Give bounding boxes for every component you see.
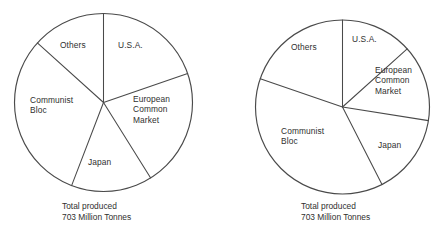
slice-label-usa: U.S.A. (118, 40, 143, 50)
pie-chart-left: U.S.A. European Common Market Japan Comm… (0, 0, 224, 240)
slice-label-communist-bloc: Communist Bloc (30, 95, 73, 116)
pie-slice-divider (260, 79, 342, 107)
pie-chart-right: U.S.A. European Common Market Japan Comm… (224, 0, 448, 240)
slice-label-communist-bloc: Communist Bloc (281, 126, 324, 147)
slice-label-japan: Japan (88, 157, 111, 167)
pie-right-caption: Total produced 703 Million Tonnes (301, 201, 370, 223)
slice-label-others: Others (291, 42, 317, 52)
pie-slice-divider (72, 103, 104, 186)
slice-label-japan: Japan (378, 140, 401, 150)
slice-label-european-common-market: European Common Market (133, 94, 170, 125)
slice-label-usa: U.S.A. (352, 34, 377, 44)
pie-slice-divider (343, 107, 429, 121)
slice-label-european-common-market: European Common Market (375, 65, 412, 96)
pie-chart-figure: U.S.A. European Common Market Japan Comm… (0, 0, 448, 240)
slice-label-others: Others (60, 40, 86, 50)
pie-slice-divider (37, 43, 103, 103)
pie-slice-divider (343, 107, 382, 185)
pie-left-caption: Total produced 703 Million Tonnes (62, 201, 131, 223)
